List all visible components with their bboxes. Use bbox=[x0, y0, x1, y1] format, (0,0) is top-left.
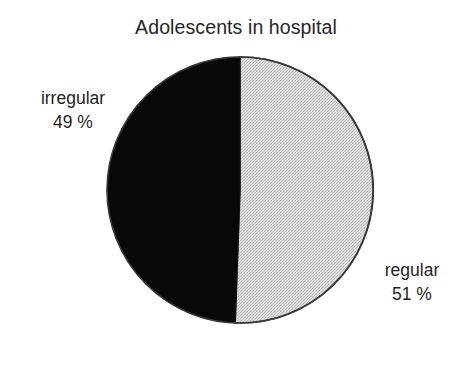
pie-label-irregular-percent: 49 % bbox=[8, 110, 138, 134]
pie-chart-graphic bbox=[106, 56, 374, 324]
pie-label-irregular-name: irregular bbox=[8, 86, 138, 110]
chart-title: Adolescents in hospital bbox=[0, 16, 472, 39]
pie-svg bbox=[106, 56, 374, 324]
pie-label-regular-name: regular bbox=[349, 258, 472, 282]
pie-label-irregular: irregular 49 % bbox=[8, 86, 138, 134]
pie-label-regular-percent: 51 % bbox=[349, 282, 472, 306]
pie-label-regular: regular 51 % bbox=[349, 258, 472, 306]
pie-chart-figure: Adolescents in hospital irregular 49 % bbox=[0, 0, 472, 365]
